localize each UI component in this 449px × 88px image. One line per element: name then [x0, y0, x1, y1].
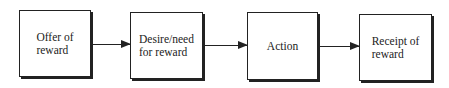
node-offer-of-reward: Offer of reward — [19, 10, 91, 77]
node-label: Offer of reward — [36, 31, 73, 57]
arrow-action-to-receipt — [319, 46, 359, 47]
node-action: Action — [247, 12, 318, 80]
node-label: Receipt of reward — [372, 35, 420, 61]
node-label: Action — [267, 40, 298, 53]
node-label: Desire/need for reward — [139, 33, 194, 59]
arrow-offer-to-desire — [92, 44, 130, 45]
node-receipt-of-reward: Receipt of reward — [359, 14, 432, 81]
arrow-desire-to-action — [204, 45, 247, 46]
node-desire-need-for-reward: Desire/need for reward — [130, 12, 203, 79]
